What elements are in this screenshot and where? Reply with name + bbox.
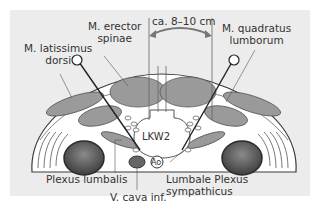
diagram-frame: M. erector spinae M. latissimus dorsi ca… (0, 0, 325, 213)
distance-arrow (153, 28, 208, 34)
label-quadratus-lumborum: M. quadratus lumborum (222, 22, 291, 46)
label-line: M. erector (88, 20, 141, 32)
erector-spinae-right (160, 77, 216, 107)
label-line: lumborum (222, 34, 291, 46)
label-erector-spinae: M. erector spinae (88, 20, 141, 44)
label-aorta: Ao (151, 157, 161, 169)
label-sympathicus: Lumbale Plexus sympathicus (166, 173, 248, 197)
vena-cava (129, 156, 145, 168)
label-line: M. latissimus (24, 42, 92, 54)
label-line: sympathicus (166, 185, 248, 197)
label-line: spinae (88, 32, 141, 44)
label-plexus-lumbalis: Plexus lumbalis (46, 173, 127, 185)
label-distance: ca. 8–10 cm (152, 15, 216, 27)
label-line: Lumbale Plexus (166, 173, 248, 185)
label-vena-cava: V. cava inf. (110, 191, 167, 203)
label-line: M. quadratus (222, 22, 291, 34)
label-latissimus-dorsi: M. latissimus dorsi (24, 42, 92, 66)
kidney-right (222, 141, 262, 175)
label-vertebra: LKW2 (142, 131, 170, 143)
label-line: dorsi (24, 54, 92, 66)
kidney-left (64, 141, 104, 175)
